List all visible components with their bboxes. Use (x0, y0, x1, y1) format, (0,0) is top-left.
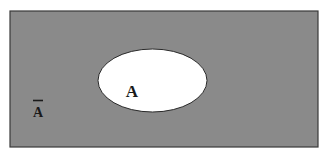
complement-a-label: A (33, 105, 44, 120)
set-a-label: A (126, 82, 139, 101)
set-a-ellipse (98, 49, 207, 112)
venn-diagram: A A (0, 0, 330, 154)
